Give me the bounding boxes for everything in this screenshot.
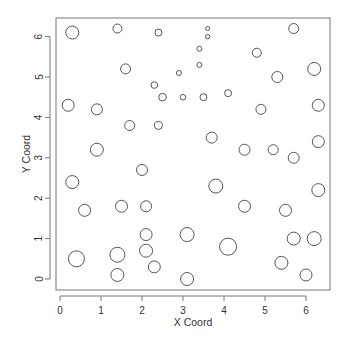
y-axis-title: Y Coord — [20, 135, 32, 173]
x-tick-label: 2 — [139, 305, 145, 316]
data-point — [300, 269, 312, 281]
data-point — [209, 179, 223, 193]
x-tick-label: 1 — [98, 305, 104, 316]
data-point — [159, 93, 167, 101]
data-point — [111, 268, 124, 281]
data-point — [206, 27, 210, 31]
data-point — [280, 204, 292, 216]
data-point — [200, 94, 207, 101]
data-point — [66, 176, 79, 189]
data-point — [308, 62, 321, 75]
data-point — [155, 29, 162, 36]
data-point — [121, 64, 131, 74]
data-point — [312, 136, 324, 148]
data-point — [116, 200, 128, 212]
x-tick-label: 4 — [221, 305, 227, 316]
data-point — [91, 104, 102, 115]
y-tick-label: 6 — [34, 33, 45, 39]
data-point — [312, 184, 325, 197]
data-point — [151, 82, 158, 89]
data-point — [272, 72, 283, 83]
data-point — [225, 90, 232, 97]
data-point — [220, 238, 237, 255]
data-point — [110, 247, 125, 262]
data-point — [181, 273, 194, 286]
data-point — [206, 132, 217, 143]
data-point — [125, 120, 135, 130]
data-points — [62, 24, 325, 286]
y-tick-label: 5 — [34, 74, 45, 80]
data-point — [180, 94, 186, 100]
data-point — [68, 251, 84, 267]
data-point — [137, 164, 148, 175]
data-point — [307, 232, 321, 246]
x-axis: 0123456 — [57, 296, 309, 316]
data-point — [141, 201, 152, 212]
y-tick-label: 1 — [34, 235, 45, 241]
data-point — [140, 229, 152, 241]
data-point — [197, 62, 202, 67]
data-point — [289, 24, 299, 34]
x-axis-title: X Coord — [174, 316, 213, 328]
y-tick-label: 2 — [34, 195, 45, 201]
data-point — [154, 121, 162, 129]
data-point — [239, 200, 251, 212]
x-tick-label: 5 — [262, 305, 268, 316]
data-point — [180, 228, 194, 242]
plot-area-frame — [56, 18, 330, 290]
x-tick-label: 6 — [303, 305, 309, 316]
data-point — [287, 232, 300, 245]
y-tick-label: 0 — [34, 276, 45, 282]
data-point — [148, 261, 160, 273]
data-point — [275, 256, 288, 269]
data-point — [140, 244, 153, 257]
data-point — [256, 104, 266, 114]
data-point — [113, 24, 122, 33]
data-point — [79, 204, 91, 216]
y-tick-label: 3 — [34, 155, 45, 161]
x-tick-label: 3 — [180, 305, 186, 316]
data-point — [176, 70, 181, 75]
data-point — [62, 99, 74, 111]
data-point — [252, 48, 261, 57]
data-point — [197, 46, 202, 51]
scatter-plot: 0123456 0123456 X Coord Y Coord — [0, 0, 352, 344]
y-tick-label: 4 — [34, 114, 45, 120]
data-point — [66, 26, 79, 39]
data-point — [312, 99, 324, 111]
y-axis: 0123456 — [34, 33, 51, 281]
data-point — [288, 152, 299, 163]
data-point — [205, 34, 209, 38]
data-point — [239, 144, 250, 155]
data-point — [90, 143, 103, 156]
x-tick-label: 0 — [57, 305, 63, 316]
data-point — [268, 145, 278, 155]
